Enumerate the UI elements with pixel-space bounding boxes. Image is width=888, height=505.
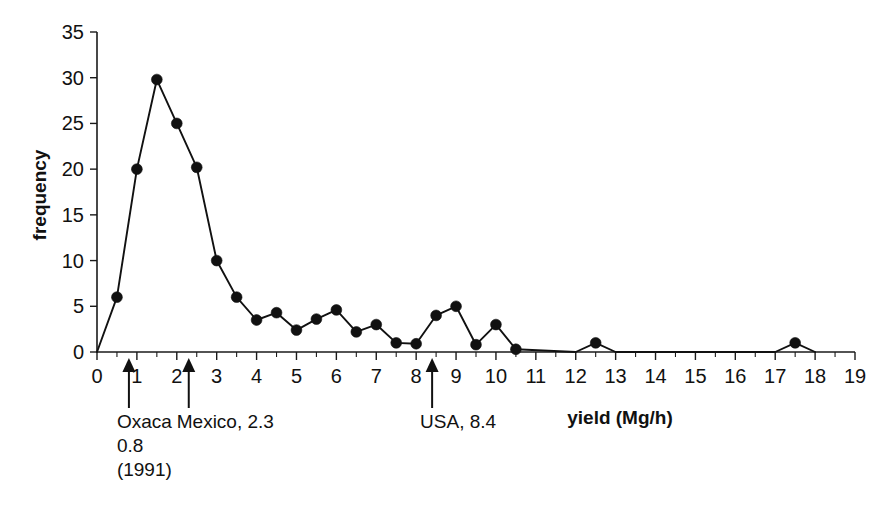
x-tick-label: 18 bbox=[804, 365, 826, 387]
x-axis: 012345678910111213141516171819 bbox=[91, 352, 866, 387]
series-data-point bbox=[291, 325, 302, 336]
x-tick-label: 3 bbox=[211, 365, 222, 387]
x-tick-label: 19 bbox=[844, 365, 866, 387]
y-axis: 05101520253035 bbox=[62, 21, 97, 363]
annotation-label-oxaca: 0.8 bbox=[117, 435, 143, 456]
y-tick-label: 0 bbox=[73, 341, 84, 363]
y-tick-label: 25 bbox=[62, 112, 84, 134]
series-data-point bbox=[451, 301, 462, 312]
up-arrow-icon bbox=[182, 358, 195, 372]
annotation-label-oxaca: (1991) bbox=[117, 459, 172, 480]
x-tick-label: 8 bbox=[411, 365, 422, 387]
x-tick-label: 13 bbox=[605, 365, 627, 387]
data-series bbox=[97, 74, 815, 355]
x-tick-label: 2 bbox=[171, 365, 182, 387]
series-data-point bbox=[471, 339, 482, 350]
x-tick-label: 5 bbox=[291, 365, 302, 387]
line-chart-canvas: 05101520253035 0123456789101112131415161… bbox=[0, 0, 888, 505]
series-data-point bbox=[790, 337, 801, 348]
x-tick-label: 7 bbox=[371, 365, 382, 387]
y-axis-tick-labels: 05101520253035 bbox=[62, 21, 84, 363]
series-data-point bbox=[151, 74, 162, 85]
annotation-label-mexico: Mexico, 2.3 bbox=[177, 411, 274, 432]
series-data-point bbox=[171, 118, 182, 129]
y-tick-label: 30 bbox=[62, 67, 84, 89]
x-tick-label: 12 bbox=[565, 365, 587, 387]
y-axis-title: frequency bbox=[29, 149, 50, 240]
x-tick-label: 4 bbox=[251, 365, 262, 387]
series-data-point bbox=[231, 292, 242, 303]
series-data-point bbox=[590, 337, 601, 348]
x-tick-label: 10 bbox=[485, 365, 507, 387]
y-tick-label: 5 bbox=[73, 295, 84, 317]
y-tick-label: 35 bbox=[62, 21, 84, 43]
x-tick-label: 0 bbox=[91, 365, 102, 387]
series-data-point bbox=[211, 255, 222, 266]
series-data-point bbox=[411, 338, 422, 349]
x-tick-label: 14 bbox=[644, 365, 666, 387]
series-data-point bbox=[510, 344, 521, 355]
y-tick-label: 20 bbox=[62, 158, 84, 180]
x-tick-label: 16 bbox=[724, 365, 746, 387]
annotation-oxaca: Oxaca0.8(1991) bbox=[117, 358, 172, 480]
series-data-point bbox=[431, 310, 442, 321]
annotation-label-oxaca: Oxaca bbox=[117, 411, 172, 432]
x-tick-label: 15 bbox=[684, 365, 706, 387]
series-data-point bbox=[191, 162, 202, 173]
up-arrow-icon bbox=[426, 358, 439, 372]
y-tick-label: 10 bbox=[62, 250, 84, 272]
series-data-point bbox=[131, 164, 142, 175]
chart-figure: 05101520253035 0123456789101112131415161… bbox=[0, 0, 888, 505]
annotation-label-usa: USA, 8.4 bbox=[420, 411, 496, 432]
series-data-point bbox=[351, 326, 362, 337]
series-data-point bbox=[491, 319, 502, 330]
y-axis-ticks bbox=[90, 32, 97, 352]
x-axis-title: yield (Mg/h) bbox=[567, 407, 673, 428]
x-tick-label: 11 bbox=[525, 365, 546, 387]
x-tick-label: 9 bbox=[450, 365, 461, 387]
series-data-point bbox=[311, 314, 322, 325]
series-data-point bbox=[371, 319, 382, 330]
x-tick-label: 6 bbox=[331, 365, 342, 387]
series-markers bbox=[112, 74, 801, 355]
y-tick-label: 15 bbox=[62, 204, 84, 226]
series-data-point bbox=[331, 305, 342, 316]
series-data-point bbox=[251, 315, 262, 326]
series-data-point bbox=[391, 337, 402, 348]
x-tick-label: 17 bbox=[764, 365, 786, 387]
x-axis-tick-labels: 012345678910111213141516171819 bbox=[91, 365, 866, 387]
series-data-point bbox=[112, 292, 123, 303]
series-data-point bbox=[271, 307, 282, 318]
